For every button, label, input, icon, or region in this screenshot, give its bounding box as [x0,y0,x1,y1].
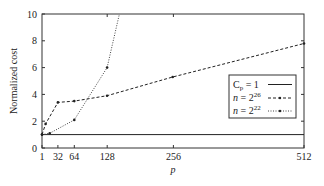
y-tick-label: 4 [32,89,37,100]
x-tick-label: 32 [53,151,63,162]
y-tick-label: 2 [32,116,37,127]
legend: Cp = 1 n = 226 n = 222 [229,75,296,118]
data-point-marker [41,133,44,136]
y-tick-label: 10 [27,9,37,20]
chart: 0 2 4 6 8 10 Normalized cost 1 32 64 128… [0,0,324,186]
data-point-marker [48,132,51,135]
data-point-marker [44,123,47,126]
data-point-marker [73,119,76,122]
x-tick-label: 256 [166,151,181,162]
series-line-dotted [42,14,119,135]
data-point-marker [106,66,109,69]
x-tick-label: 64 [69,151,79,162]
x-axis-label: p [170,164,176,175]
x-tick-label: 1 [40,151,45,162]
y-tick-label: 0 [32,143,37,154]
data-point-marker [171,76,174,79]
y-tick-label: 8 [32,35,37,46]
data-point-marker [73,100,76,103]
y-axis-label: Normalized cost [8,48,19,114]
x-tick-label: 128 [100,151,115,162]
x-tick-label: 512 [297,151,312,162]
data-point-marker [303,42,306,45]
data-point-marker [57,101,60,104]
data-point-marker [106,94,109,97]
y-tick-label: 6 [32,62,37,73]
